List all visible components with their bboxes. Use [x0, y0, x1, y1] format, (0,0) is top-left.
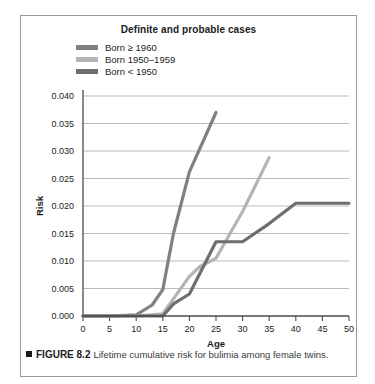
- series-line: [83, 113, 216, 317]
- plot-area: 0.0000.0050.0100.0150.0200.0250.0300.035…: [21, 16, 356, 376]
- y-tick-label: 0.030: [51, 146, 74, 156]
- y-axis-ticks: 0.0000.0050.0100.0150.0200.0250.0300.035…: [51, 91, 74, 321]
- x-tick-label: 35: [264, 324, 274, 334]
- caption-text: Lifetime cumulative risk for bulimia amo…: [93, 349, 328, 360]
- x-tick-label: 45: [317, 324, 327, 334]
- y-tick-label: 0.005: [51, 284, 74, 294]
- y-tick-label: 0.035: [51, 119, 74, 129]
- data-series: [83, 113, 349, 317]
- y-tick-label: 0.000: [51, 311, 74, 321]
- x-tick-label: 40: [291, 324, 301, 334]
- y-tick-label: 0.025: [51, 174, 74, 184]
- y-axis-label: Risk: [34, 195, 45, 216]
- caption-square-icon: [26, 351, 32, 357]
- series-line: [83, 158, 269, 316]
- y-tick-label: 0.015: [51, 229, 74, 239]
- x-tick-label: 25: [211, 324, 221, 334]
- y-tick-label: 0.020: [51, 201, 74, 211]
- x-tick-label: 30: [238, 324, 248, 334]
- x-tick-label: 10: [131, 324, 141, 334]
- x-tick-label: 5: [107, 324, 112, 334]
- x-tick-label: 0: [80, 324, 85, 334]
- x-tick-label: 15: [158, 324, 168, 334]
- x-tick-label: 50: [344, 324, 354, 334]
- y-tick-label: 0.010: [51, 256, 74, 266]
- x-tick-label: 20: [184, 324, 194, 334]
- x-axis-ticks: 05101520253035404550: [80, 316, 354, 334]
- y-tick-label: 0.040: [51, 91, 74, 101]
- chart-svg: 0.0000.0050.0100.0150.0200.0250.0300.035…: [21, 16, 358, 356]
- figure-caption: FIGURE 8.2Lifetime cumulative risk for b…: [26, 348, 363, 361]
- caption-figure-number: FIGURE 8.2: [36, 349, 90, 360]
- figure-frame: Definite and probable cases Born ≥ 1960 …: [20, 15, 357, 377]
